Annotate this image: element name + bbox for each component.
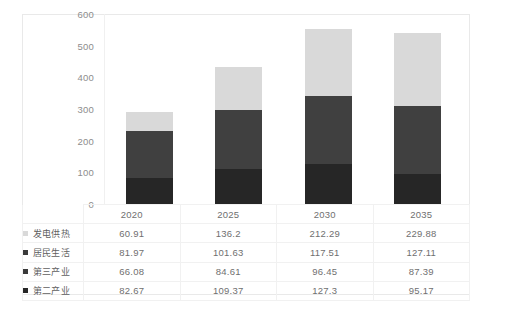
table-row: 发电供热60.91136.2212.29229.88 [23, 224, 470, 243]
table-cell-value: 60.91 [84, 224, 181, 243]
table-cell-value: 82.67 [84, 281, 181, 300]
bar-segment[interactable] [215, 169, 262, 204]
bar-slot [284, 14, 373, 204]
bar-segment[interactable] [305, 164, 352, 204]
bar-slot [373, 14, 462, 204]
table-cell-value: 127.11 [373, 243, 470, 262]
legend-swatch-icon [23, 288, 28, 293]
table-header-year: 2035 [373, 205, 470, 224]
bar-segment[interactable] [126, 178, 173, 204]
bar-segment[interactable] [126, 157, 173, 178]
y-axis-tick-label: 600 [54, 9, 94, 20]
y-axis-tick-label: 500 [54, 40, 94, 51]
bar-slot [194, 14, 283, 204]
y-axis-tick-label: 200 [54, 135, 94, 146]
table-cell-value: 81.97 [84, 243, 181, 262]
stacked-bar[interactable] [126, 112, 173, 204]
legend-swatch-icon [23, 231, 28, 236]
bar-segment[interactable] [394, 174, 441, 204]
table-row: 第二产业82.67109.37127.395.17 [23, 281, 470, 300]
stacked-bar[interactable] [215, 67, 262, 204]
table-cell-value: 101.63 [180, 243, 277, 262]
table-cell-value: 95.17 [373, 281, 470, 300]
table-header-year: 2020 [84, 205, 181, 224]
bar-group [105, 14, 462, 204]
table-cell-value: 117.51 [277, 243, 374, 262]
bar-segment[interactable] [394, 106, 441, 146]
table-cell-value: 66.08 [84, 262, 181, 281]
table-row: 第三产业66.0884.6196.4587.39 [23, 262, 470, 281]
y-axis-tick-label: 100 [54, 167, 94, 178]
y-axis: 0100200300400500600 [32, 14, 94, 204]
legend-label: 第三产业 [33, 265, 70, 278]
legend-item-1[interactable]: 发电供热 [23, 224, 84, 243]
table-cell-value: 84.61 [180, 262, 277, 281]
bar-slot [105, 14, 194, 204]
table-cell-value: 87.39 [373, 262, 470, 281]
bar-segment[interactable] [394, 146, 441, 174]
table-cell-value: 127.3 [277, 281, 374, 300]
bar-segment[interactable] [215, 110, 262, 142]
plot-area [104, 14, 462, 204]
stacked-bar[interactable] [305, 29, 352, 204]
table-row: 居民生活81.97101.63117.51127.11 [23, 243, 470, 262]
table-header-year: 2025 [180, 205, 277, 224]
table-header-year: 2030 [277, 205, 374, 224]
bar-segment[interactable] [305, 96, 352, 133]
legend-swatch-icon [23, 269, 28, 274]
bar-segment[interactable] [126, 131, 173, 157]
legend-swatch-icon [23, 250, 28, 255]
bar-segment[interactable] [305, 133, 352, 164]
plot-region: 0100200300400500600 [22, 14, 470, 204]
y-axis-tick-label: 300 [54, 104, 94, 115]
table-cell-value: 229.88 [373, 224, 470, 243]
data-table-region: 2020202520302035发电供热60.91136.2212.29229.… [22, 204, 470, 295]
legend-label: 第二产业 [33, 284, 70, 297]
y-axis-tick-label: 400 [54, 72, 94, 83]
bar-segment[interactable] [215, 143, 262, 170]
chart-figure: 0100200300400500600 2020202520302035发电供热… [0, 0, 506, 327]
legend-item-2[interactable]: 居民生活 [23, 243, 84, 262]
table-cell-value: 212.29 [277, 224, 374, 243]
bar-segment[interactable] [394, 33, 441, 106]
legend-item-3[interactable]: 第三产业 [23, 262, 84, 281]
table-cell-value: 136.2 [180, 224, 277, 243]
stacked-bar[interactable] [394, 33, 441, 204]
table-cell-value: 96.45 [277, 262, 374, 281]
bar-segment[interactable] [215, 67, 262, 110]
bar-segment[interactable] [126, 112, 173, 131]
table-corner-cell [23, 205, 84, 224]
bar-segment[interactable] [305, 29, 352, 96]
legend-label: 发电供热 [33, 227, 70, 240]
table-cell-value: 109.37 [180, 281, 277, 300]
table-row-years: 2020202520302035 [23, 205, 470, 224]
legend-item-4[interactable]: 第二产业 [23, 281, 84, 300]
data-table: 2020202520302035发电供热60.91136.2212.29229.… [22, 204, 470, 301]
legend-label: 居民生活 [33, 246, 70, 259]
